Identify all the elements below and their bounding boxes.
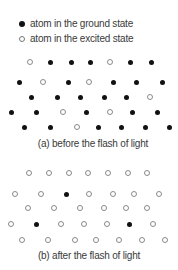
atom-excited-icon — [131, 191, 137, 197]
atom-excited-icon — [144, 170, 150, 176]
atom-excited-icon — [110, 191, 116, 197]
atom-excited-icon — [58, 221, 64, 227]
atom-excited-icon — [105, 170, 111, 176]
atom-excited-icon — [123, 205, 129, 211]
atom-excited-icon — [45, 237, 51, 243]
atom-excited-icon — [139, 237, 145, 243]
atom-lattice-after — [0, 0, 178, 270]
atom-excited-icon — [156, 191, 162, 197]
atom-excited-icon — [72, 237, 78, 243]
atom-excited-icon — [86, 191, 92, 197]
caption-after: (b) after the flash of light — [0, 250, 178, 261]
atom-excited-icon — [77, 205, 83, 211]
atom-excited-icon — [26, 170, 32, 176]
atom-ground-icon — [127, 222, 132, 227]
atom-ground-icon — [64, 192, 69, 197]
atom-excited-icon — [81, 221, 87, 227]
atom-excited-icon — [85, 170, 91, 176]
atom-ground-icon — [34, 222, 39, 227]
atom-excited-icon — [66, 170, 72, 176]
atom-excited-icon — [93, 237, 99, 243]
atom-excited-icon — [51, 205, 57, 211]
atom-excited-icon — [46, 170, 52, 176]
atom-excited-icon — [144, 205, 150, 211]
atom-excited-icon — [8, 221, 14, 227]
atom-excited-icon — [38, 191, 44, 197]
atom-excited-icon — [125, 170, 131, 176]
atom-excited-icon — [19, 237, 25, 243]
atom-excited-icon — [101, 205, 107, 211]
atom-excited-icon — [25, 205, 31, 211]
atom-excited-icon — [162, 237, 168, 243]
atom-excited-icon — [104, 221, 110, 227]
atom-excited-icon — [116, 237, 122, 243]
atom-excited-icon — [12, 191, 18, 197]
atom-excited-icon — [150, 221, 156, 227]
